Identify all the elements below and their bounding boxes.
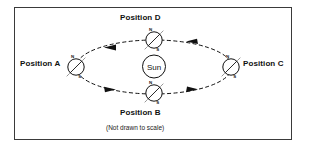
earth-globe-position-c: N S [222, 54, 240, 79]
earth-globe-position-b: N S [145, 80, 163, 105]
earth-d-south-pole-label: S [156, 47, 159, 52]
earth-a-south-pole-label: S [78, 74, 81, 79]
position-a-label: Position A [20, 59, 60, 68]
earth-b-south-pole-label: S [156, 100, 159, 105]
sun-symbol: Sun [143, 55, 166, 78]
orbit-direction-arrow-lower-right [186, 87, 198, 93]
orbit-direction-arrow-upper-right [186, 39, 198, 44]
earth-d-north-pole-label: N [149, 27, 152, 32]
earth-b-north-pole-label: N [149, 80, 152, 85]
position-b-label: Position B [120, 108, 161, 117]
earth-globe-position-a: N S [67, 54, 85, 79]
position-c-label: Position C [243, 59, 284, 68]
orbit-direction-arrow-lower-left [104, 87, 116, 92]
diagram-caption: (Not drawn to scale) [106, 124, 164, 131]
position-d-label: Position D [120, 13, 161, 22]
earth-a-north-pole-label: N [71, 54, 74, 59]
earth-globe-position-d: N S [145, 27, 163, 52]
earth-c-south-pole-label: S [233, 74, 236, 79]
sun-label: Sun [147, 63, 161, 72]
earth-c-north-pole-label: N [226, 54, 229, 59]
